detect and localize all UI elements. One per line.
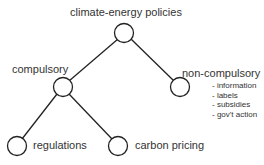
item-labels: - labels xyxy=(212,91,257,101)
edge-root-compulsory xyxy=(69,39,118,81)
item-subsidies: - subsidies xyxy=(212,100,257,110)
label-non-compulsory: non-compulsory xyxy=(182,67,260,79)
node-regulations xyxy=(8,137,27,156)
node-root xyxy=(115,24,134,43)
label-regulations: regulations xyxy=(33,139,87,151)
edge-root-non-compulsory xyxy=(131,39,174,81)
label-compulsory: compulsory xyxy=(12,63,68,75)
edge-compulsory-regulations xyxy=(22,94,57,139)
label-carbon-pricing: carbon pricing xyxy=(135,139,204,151)
item-information: - information xyxy=(212,81,257,91)
node-non-compulsory xyxy=(171,78,190,97)
edge-compulsory-carbon-pricing xyxy=(69,94,112,139)
node-carbon-pricing xyxy=(109,137,128,156)
item-govt-action: - gov't action xyxy=(212,110,257,120)
node-compulsory xyxy=(54,78,73,97)
non-compulsory-items: - information - labels - subsidies - gov… xyxy=(212,81,257,119)
label-root: climate-energy policies xyxy=(70,6,182,18)
